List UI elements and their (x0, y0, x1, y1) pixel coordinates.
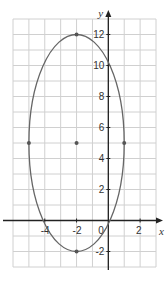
point-left-co-vertex (27, 141, 31, 145)
point-center (75, 141, 79, 145)
y-tick-label: 12 (93, 29, 105, 40)
x-axis-label: x (158, 225, 164, 237)
x-tick-label: -2 (73, 225, 82, 236)
ellipse-graph: xy-4-202-224681012 (0, 0, 165, 281)
y-tick-label: 4 (99, 153, 105, 164)
point-right-co-vertex (122, 141, 126, 145)
y-tick-label: 2 (99, 184, 105, 195)
x-axis-arrow-icon (156, 218, 163, 224)
x-tick-label: 2 (136, 225, 142, 236)
y-axis-label: y (97, 7, 103, 19)
point-bottom-vertex (75, 250, 79, 254)
x-tick-label: 0 (98, 225, 104, 236)
point-top-vertex (75, 33, 79, 37)
y-tick-label: 8 (99, 91, 105, 102)
y-tick-label: -2 (95, 246, 104, 257)
y-axis-arrow-icon (105, 10, 111, 17)
y-tick-label: 10 (93, 60, 105, 71)
y-tick-label: 6 (99, 122, 105, 133)
